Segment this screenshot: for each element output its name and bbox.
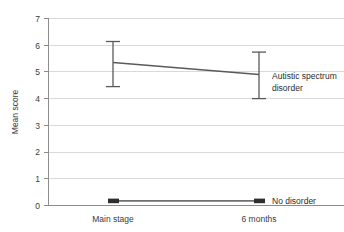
y-tick-label-4: 4: [35, 94, 40, 104]
x-category-label-6-months: 6 months: [242, 214, 277, 224]
y-tick-label-1: 1: [35, 174, 40, 184]
series-label-asd-line1: Autistic spectrum: [272, 71, 337, 81]
y-tick-label-0: 0: [35, 201, 40, 211]
mean-score-line-chart: 7 6 5 4 3 2 1 0 Mean score: [0, 0, 344, 232]
series-no-disorder-marker-6-months: [254, 199, 265, 204]
y-tick-label-6: 6: [35, 41, 40, 51]
y-tick-label-7: 7: [35, 14, 40, 24]
chart-container: 7 6 5 4 3 2 1 0 Mean score: [0, 0, 344, 232]
series-label-asd-line2: disorder: [272, 83, 303, 93]
series-no-disorder-marker-main-stage: [108, 199, 119, 204]
series-label-no-disorder: No disorder: [272, 196, 316, 206]
y-tick-label-3: 3: [35, 121, 40, 131]
y-axis-title: Mean score: [10, 90, 20, 135]
x-category-label-main-stage: Main stage: [92, 214, 134, 224]
y-tick-label-5: 5: [35, 67, 40, 77]
y-tick-label-2: 2: [35, 147, 40, 157]
